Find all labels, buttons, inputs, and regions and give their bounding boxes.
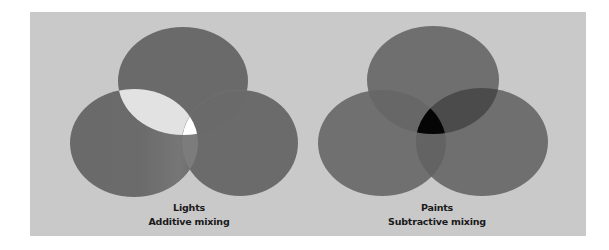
subtractive-title: Paints (377, 201, 497, 215)
subtractive-caption: Paints Subtractive mixing (377, 201, 497, 229)
subtractive-diagram (318, 26, 548, 196)
additive-subtitle: Additive mixing (133, 215, 245, 229)
additive-title: Lights (133, 201, 245, 215)
subtractive-subtitle: Subtractive mixing (377, 215, 497, 229)
additive-diagram (70, 27, 298, 197)
additive-caption: Lights Additive mixing (133, 201, 245, 229)
color-mixing-venn-diagrams (0, 0, 609, 250)
